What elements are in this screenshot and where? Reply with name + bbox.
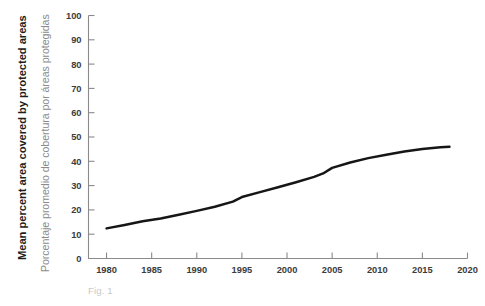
x-tick-label: 1990 xyxy=(186,265,207,275)
y-tick-label: 60 xyxy=(71,108,81,118)
figure-container: Mean percent area covered by protected a… xyxy=(0,0,485,306)
x-tick-label: 1980 xyxy=(96,265,117,275)
x-tick-label: 2000 xyxy=(277,265,298,275)
line-chart-plot: 0102030405060708090100 19801985199019952… xyxy=(0,0,485,306)
x-tick-label: 2005 xyxy=(322,265,343,275)
x-axis-tick-labels: 198019851990199520002005201020152020 xyxy=(96,265,478,275)
y-tick-label: 80 xyxy=(71,60,81,70)
data-series-line xyxy=(107,147,450,229)
x-tick-label: 2010 xyxy=(367,265,388,275)
y-tick-label: 90 xyxy=(71,35,81,45)
x-tick-label: 2015 xyxy=(412,265,433,275)
y-tick-label: 10 xyxy=(71,230,81,240)
x-tick-label: 2020 xyxy=(457,265,478,275)
figure-caption: Fig. 1 xyxy=(88,285,113,296)
y-tick-label: 100 xyxy=(66,11,82,21)
y-tick-label: 50 xyxy=(71,132,81,142)
y-tick-label: 30 xyxy=(71,181,81,191)
x-tick-label: 1995 xyxy=(232,265,253,275)
y-tick-label: 40 xyxy=(71,157,81,167)
y-tick-label: 20 xyxy=(71,205,81,215)
y-axis-tick-labels: 0102030405060708090100 xyxy=(66,11,82,264)
y-tick-label: 0 xyxy=(76,254,81,264)
x-tick-label: 1985 xyxy=(141,265,162,275)
y-tick-label: 70 xyxy=(71,84,81,94)
